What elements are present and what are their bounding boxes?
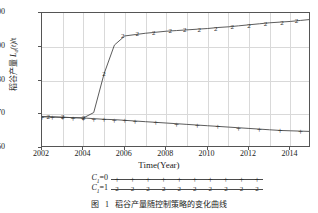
legend-row-c1-0: C1=0 ++++++++++ [0, 174, 318, 184]
legend-row-c1-1: C1=1 2222222222 [0, 184, 318, 194]
x-tick-label-2004: 2004 [74, 150, 90, 158]
caption-number: 1 [99, 200, 115, 209]
legend-marker: 2 [255, 186, 259, 193]
legend-marker: 2 [224, 186, 228, 193]
series-line-c1-1 [42, 19, 310, 118]
legend-sample-c1-0: ++++++++++ [111, 174, 263, 184]
legend-marker: + [254, 175, 259, 184]
legend-marker: 2 [209, 186, 213, 193]
x-tick-label-2008: 2008 [157, 150, 173, 158]
legend-marker: + [177, 175, 182, 184]
legend-marker: + [239, 175, 244, 184]
legend-marker: 2 [131, 186, 135, 193]
series-lines [42, 13, 310, 147]
plot-area: ++++++++++++++++++ 22222222222222222 [41, 12, 310, 147]
legend-marker: 2 [115, 186, 119, 193]
x-tick-label-2014: 2014 [281, 150, 297, 158]
legend-marker: 2 [193, 186, 197, 193]
caption-text: 稻谷产量随控制策略的变化曲线 [115, 200, 227, 209]
y-tick-label-60: 60 [0, 143, 5, 151]
x-tick-label-2002: 2002 [33, 150, 49, 158]
legend-marker: 2 [162, 186, 166, 193]
series-line-c1-0 [42, 117, 310, 132]
y-tick-label-90: 90 [0, 42, 5, 50]
caption-figure-word: 图 [91, 200, 99, 209]
figure-container: 稻谷产量 La(t)/t 100 90 80 70 60 +++++++++++… [0, 0, 318, 213]
legend-label-c1-1: C1=1 [0, 184, 111, 195]
legend-marker: + [114, 175, 119, 184]
x-axis-title: Time(Year) [0, 160, 318, 170]
y-tick-label-70: 70 [0, 109, 5, 117]
y-axis-title-text: 稻谷产量 La(t)/t [9, 38, 18, 91]
legend-marker: + [130, 175, 135, 184]
legend: C1=0 ++++++++++ C1=1 2222222222 [0, 174, 318, 194]
legend-marker: 2 [177, 186, 181, 193]
legend-marker: + [146, 175, 151, 184]
data-point-marker: 2 [309, 16, 310, 23]
legend-marker: + [161, 175, 166, 184]
y-tick-label-80: 80 [0, 76, 5, 84]
x-tick-label-2006: 2006 [116, 150, 132, 158]
legend-marker: 2 [240, 186, 244, 193]
y-tick-label-100: 100 [0, 8, 5, 16]
legend-marker: + [223, 175, 228, 184]
legend-sample-c1-1: 2222222222 [111, 184, 263, 194]
legend-marker: + [192, 175, 197, 184]
x-tick-label-2010: 2010 [199, 150, 215, 158]
legend-marker: 2 [146, 186, 150, 193]
x-tick-label-2012: 2012 [240, 150, 256, 158]
legend-marker: + [208, 175, 213, 184]
figure-caption: 图1稻谷产量随控制策略的变化曲线 [0, 200, 318, 210]
y-axis-title: 稻谷产量 La(t)/t [7, 0, 20, 129]
